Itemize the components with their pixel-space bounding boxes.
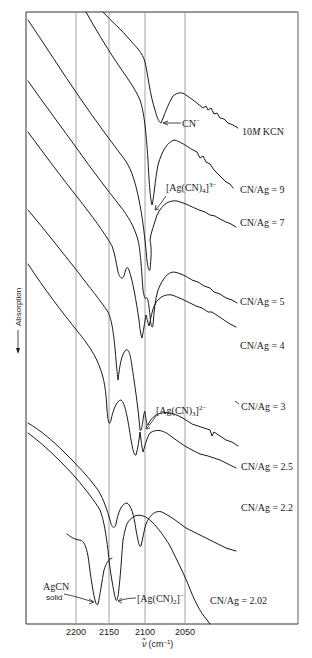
label-cn-ag-5: CN/Ag = 5 (240, 296, 285, 307)
label-cn-ag-7: CN/Ag = 7 (240, 217, 285, 228)
trace-cn-ag-3 (28, 210, 238, 446)
arrow-agcn3 (147, 416, 156, 428)
x-axis-label: ν̃(cm−1) (142, 638, 174, 649)
x-tick-2150: 2150 (99, 627, 119, 637)
down-arrow-icon (16, 348, 20, 354)
trace-10m-kcn (103, 12, 238, 128)
label-cn-ag-2.02: CN/Ag = 2.02 (210, 595, 267, 606)
y-axis-label: Absorption (14, 288, 23, 326)
x-tick-2200: 2200 (66, 627, 86, 637)
annotation-agcn-solid-1: AgCN (43, 581, 69, 592)
arrow-agcn-solid (64, 594, 93, 602)
trace-cn-ag-7 (28, 20, 236, 270)
annotation-ag-cn-3: [Ag(CN)3]2− (156, 404, 206, 418)
y-axis-label-group: Absorption (14, 288, 23, 354)
annotation-cn-minus: CN− (182, 117, 200, 129)
annotation-ag-cn-2: [Ag(CN)2]− (137, 592, 184, 606)
trace-cn-ag-2.2 (28, 423, 236, 551)
label-10m-kcn: 10M KCN (242, 126, 284, 137)
ir-spectra-figure: 10M KCN CN/Ag = 9 CN/Ag = 7 CN/Ag = 5 CN… (0, 0, 312, 658)
x-tick-2100: 2100 (135, 627, 155, 637)
annotation-ag-cn-4: [Ag(CN)4]3− (166, 181, 216, 195)
label-cn-ag-3: CN/Ag = 3 (241, 401, 286, 412)
arrow-agcn4 (156, 196, 166, 209)
x-tick-2050: 2050 (175, 627, 195, 637)
annotation-agcn-solid-2: solid (46, 593, 62, 602)
label-cn-ag-9: CN/Ag = 9 (240, 184, 285, 195)
trace-agcn-solid (67, 534, 112, 605)
label-cn-ag-2.2: CN/Ag = 2.2 (241, 502, 293, 513)
label-cn-ag-4: CN/Ag = 4 (240, 340, 285, 351)
trace-cn-ag-5 (28, 81, 237, 327)
label-cn-ag-2.5: CN/Ag = 2.5 (241, 461, 293, 472)
leader-r3 (235, 401, 239, 404)
